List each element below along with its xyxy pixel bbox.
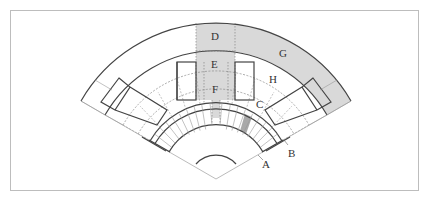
stage-arc — [196, 155, 236, 164]
label-g: G — [279, 47, 287, 59]
inner-arc-54 — [169, 125, 263, 152]
region-g-shade — [235, 23, 351, 115]
label-e: E — [211, 58, 218, 70]
aisle-lines — [142, 137, 290, 152]
label-f: F — [212, 83, 218, 95]
label-c: C — [256, 98, 263, 110]
stand-box-center-right — [235, 62, 254, 100]
fan-seating-diagram: D E F G H C B A — [0, 0, 430, 201]
label-b: B — [288, 147, 295, 159]
label-h: H — [269, 73, 277, 85]
label-a: A — [262, 158, 270, 170]
stand-box-center-left — [177, 62, 196, 100]
label-d: D — [211, 30, 219, 42]
pointer-b — [284, 140, 288, 145]
